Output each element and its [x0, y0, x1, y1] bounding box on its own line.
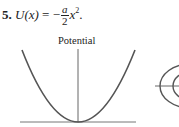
potential-plot: [20, 49, 136, 122]
figure-graphics: [0, 0, 179, 127]
phase-portrait: [155, 64, 179, 108]
